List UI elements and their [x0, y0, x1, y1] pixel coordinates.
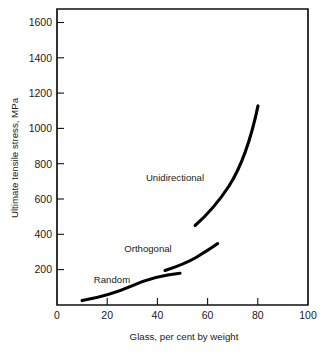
chart-canvas: 1600 1400 1200 1000 800 600 400 200 0 20…	[0, 0, 326, 360]
y-tick-label-1200: 1200	[29, 87, 53, 99]
x-axis-tick-labels: 0 20 40 60 80 100	[54, 309, 317, 321]
figure-container: 1600 1400 1200 1000 800 600 400 200 0 20…	[0, 0, 326, 360]
series-label-unidirectional: Unidirectional	[146, 172, 204, 183]
y-tick-label-1600: 1600	[29, 16, 53, 28]
y-tick-label-600: 600	[34, 193, 52, 205]
y-tick-label-200: 200	[34, 263, 52, 275]
x-axis-title: Glass, per cent by weight	[130, 331, 239, 342]
series-label-random: Random	[94, 274, 130, 285]
x-tick-label-20: 20	[101, 309, 113, 321]
y-axis-title: Ultimate tensile stress, MPa	[9, 97, 20, 218]
y-tick-label-1000: 1000	[29, 122, 53, 134]
x-tick-label-100: 100	[299, 309, 317, 321]
y-axis-tick-labels: 1600 1400 1200 1000 800 600 400 200	[29, 16, 53, 275]
series-label-orthogonal: Orthogonal	[124, 243, 171, 254]
x-tick-label-0: 0	[54, 309, 60, 321]
curve-orthogonal	[165, 244, 218, 271]
x-tick-label-60: 60	[202, 309, 214, 321]
x-axis-ticks	[107, 298, 258, 305]
y-axis-ticks	[57, 23, 64, 270]
plot-frame	[57, 9, 308, 305]
curve-unidirectional	[195, 106, 258, 226]
y-tick-label-800: 800	[34, 158, 52, 170]
y-tick-label-400: 400	[34, 228, 52, 240]
x-tick-label-80: 80	[252, 309, 264, 321]
y-tick-label-1400: 1400	[29, 52, 53, 64]
x-tick-label-40: 40	[152, 309, 164, 321]
